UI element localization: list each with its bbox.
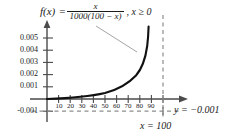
horizontal-asymptote-label: y = −0.001	[174, 105, 219, 115]
y-tick-label: 0.002	[4, 70, 38, 78]
formula-condition: , x ≥ 0	[127, 7, 152, 17]
y-tick-label: 0.003	[4, 58, 38, 66]
y-tick-label: 0.004	[4, 46, 38, 54]
figure-container: f(x) = x 1000(100 − x) , x ≥ 0 0.005 0.0…	[0, 0, 233, 138]
formula-fraction: x 1000(100 − x)	[67, 2, 123, 21]
formula-numerator: x	[91, 2, 101, 11]
formula-equals: =	[59, 6, 65, 17]
leader-line	[96, 26, 137, 52]
y-axis-arrow	[44, 20, 51, 28]
y-negative-tick-label: -0.001	[2, 107, 38, 115]
x-axis-arrow	[179, 95, 188, 102]
vertical-asymptote-label: x = 100	[140, 121, 171, 131]
y-tick-marks	[43, 38, 53, 111]
formula-function-name: f(x)	[40, 6, 55, 17]
y-tick-label: 0.005	[4, 34, 38, 42]
formula-denominator: 1000(100 − x)	[67, 11, 123, 21]
x-tick-label: 90	[144, 103, 158, 110]
function-formula: f(x) = x 1000(100 − x) , x ≥ 0	[40, 2, 151, 21]
y-tick-label: 0.001	[4, 82, 38, 90]
function-curve	[47, 27, 149, 100]
